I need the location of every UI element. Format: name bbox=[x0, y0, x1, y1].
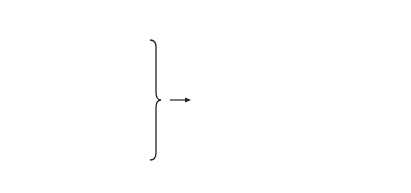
right-arrow-icon bbox=[170, 98, 191, 103]
brace-icon bbox=[150, 40, 161, 160]
diagram-canvas bbox=[0, 0, 411, 193]
beat-diagram bbox=[0, 0, 411, 193]
